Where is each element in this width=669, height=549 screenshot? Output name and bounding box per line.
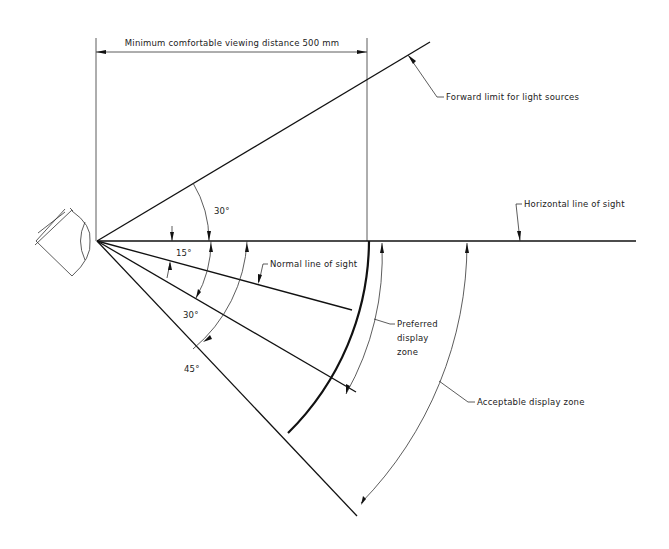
arrowhead-icon xyxy=(465,243,469,253)
min-distance-dimension: Minimum comfortable viewing distance 500… xyxy=(96,38,367,241)
upward-angle-arc xyxy=(193,183,209,241)
arrowhead-icon xyxy=(168,261,172,270)
arrowhead-icon xyxy=(408,55,416,64)
arrowhead-icon xyxy=(361,496,366,505)
forward-limit-label: Forward limit for light sources xyxy=(446,92,579,102)
lower-preferred-angle-label: 30° xyxy=(183,310,199,320)
arrowhead-icon xyxy=(209,243,213,252)
preferred-zone-leader xyxy=(374,319,395,324)
arrowhead-icon xyxy=(517,231,521,241)
arrowhead-icon xyxy=(245,243,249,252)
upward-angle-label: 30° xyxy=(214,206,230,216)
eye-icon xyxy=(35,208,90,276)
horizontal-line-label: Horizontal line of sight xyxy=(524,199,625,209)
preferred-zone-label-line3: zone xyxy=(397,347,418,357)
normal-line-leader xyxy=(259,264,268,282)
arrowhead-right-icon xyxy=(357,50,367,54)
normal-line-of-sight xyxy=(97,241,352,310)
viewing-zone-diagram: Minimum comfortable viewing distance 500… xyxy=(0,0,669,549)
acceptable-zone-label: Acceptable display zone xyxy=(477,397,585,407)
preferred-zone-label-line2: display xyxy=(397,333,429,343)
acceptable-lower-limit-line xyxy=(97,241,357,516)
arrowhead-icon xyxy=(170,232,174,241)
acceptable-zone-leader xyxy=(439,381,475,402)
arrowhead-icon xyxy=(346,384,350,394)
arrowhead-icon xyxy=(258,274,262,284)
arrowhead-left-icon xyxy=(96,50,106,54)
acceptable-zone-arc xyxy=(361,243,467,503)
preferred-zone-label-line1: Preferred xyxy=(397,319,438,329)
normal-line-label: Normal line of sight xyxy=(270,259,358,269)
arrowhead-icon xyxy=(380,243,384,253)
display-zone-boundary-arc xyxy=(288,241,369,433)
arrowhead-icon xyxy=(207,231,211,241)
forward-limit-line xyxy=(97,42,430,241)
lower-acceptable-angle-arc xyxy=(193,241,247,349)
normal-angle-label: 15° xyxy=(176,248,192,258)
lower-acceptable-angle-label: 45° xyxy=(184,364,200,374)
min-distance-label: Minimum comfortable viewing distance 500… xyxy=(125,38,339,48)
